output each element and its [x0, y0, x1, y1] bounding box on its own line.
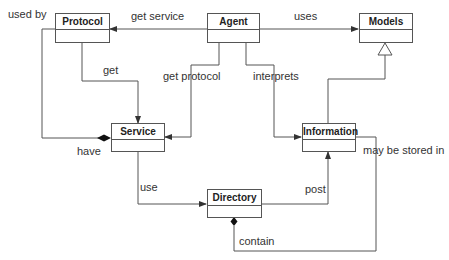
label-post: post: [305, 183, 326, 195]
get-line: [82, 42, 138, 123]
label-get: get: [103, 64, 118, 76]
label-have: have: [77, 145, 101, 157]
class-name: Protocol: [56, 14, 109, 30]
label-get-service: get service: [131, 10, 184, 22]
label-uses: uses: [294, 10, 317, 22]
class-name: Agent: [208, 14, 259, 30]
class-name: Directory: [208, 190, 261, 206]
label-used-by: used by: [8, 8, 47, 20]
label-contain: contain: [239, 235, 274, 247]
post-line: [261, 152, 328, 204]
label-interprets: interprets: [253, 70, 299, 82]
used-by-line: [42, 29, 104, 138]
class-name: Service: [112, 124, 164, 140]
class-name: Models: [360, 14, 412, 30]
composition-diamond-icon: [97, 135, 111, 142]
class-name: Information: [303, 124, 355, 140]
get-protocol-line: [165, 42, 219, 137]
use-line: [138, 151, 206, 204]
class-information: Information: [302, 123, 356, 152]
class-protocol: Protocol: [55, 13, 110, 43]
class-directory: Directory: [207, 189, 262, 218]
interprets-line: [246, 42, 301, 137]
class-models: Models: [359, 13, 413, 43]
label-may-be-stored-in: may be stored in: [363, 144, 444, 156]
class-agent: Agent: [207, 13, 260, 43]
generalization-triangle-icon: [378, 43, 392, 55]
class-service: Service: [111, 123, 165, 152]
composition-diamond-icon: [231, 217, 238, 226]
label-get-protocol: get protocol: [163, 70, 220, 82]
generalization-line: [328, 55, 385, 123]
label-use: use: [140, 181, 158, 193]
